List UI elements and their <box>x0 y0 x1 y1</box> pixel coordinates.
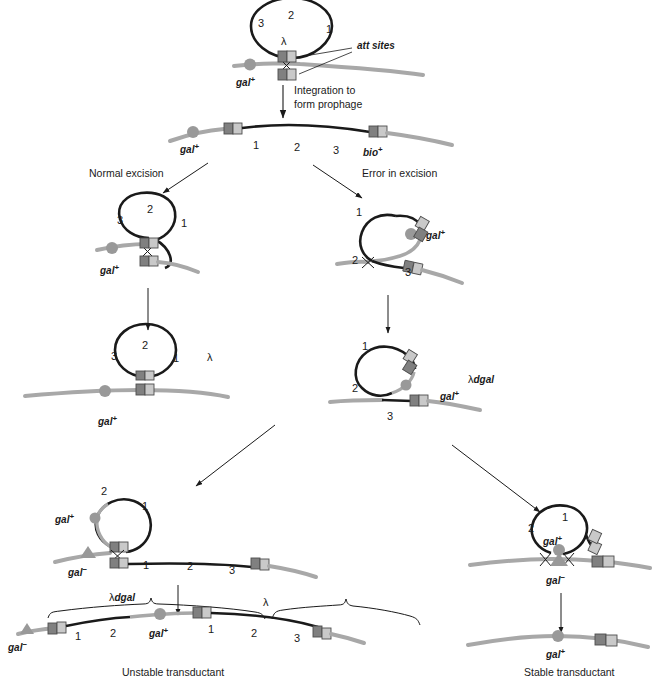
stage6l-att3-dark <box>313 626 322 637</box>
stage6l-gal-minus-triangle-icon <box>20 623 34 634</box>
stage5r-gal-minus-label: gal− <box>546 574 565 586</box>
error-in-excision-label: Error in excision <box>362 168 437 179</box>
stage3r-phage-dna-bottom <box>372 261 404 268</box>
stage2-gal-marker-icon <box>187 126 199 138</box>
stage4r-lambda-dgal-label: λdgal <box>468 374 494 385</box>
stage1-gal-label: gal+ <box>236 76 255 88</box>
stage1-att-host-left <box>278 69 287 80</box>
stage2-segment-2: 2 <box>294 142 300 153</box>
stage4r-gal-marker-icon <box>401 380 412 391</box>
stage6l-att1-dark <box>48 623 57 634</box>
stage4r-gal-label: gal+ <box>440 390 459 402</box>
stage4l-att-phage-light <box>145 371 154 380</box>
integration-label-line1: Integration to <box>294 85 355 96</box>
stage5l-host-right <box>269 566 316 577</box>
stage5l-gal-minus-triangle-icon <box>80 546 96 558</box>
stage5l-att-right-dark <box>251 558 260 569</box>
stage6l-phage-seg-b <box>211 613 318 627</box>
stage6l-right-segment-2: 2 <box>251 628 257 639</box>
stage5l-gal-plus-label: gal+ <box>55 513 74 525</box>
stage4r-number-2: 2 <box>352 383 358 394</box>
stage4r-host-right <box>428 401 480 410</box>
stage1-gal-marker-icon <box>244 59 256 71</box>
stage3r-number-2: 2 <box>352 255 358 266</box>
stage5r-gal-plus-label: gal+ <box>543 535 562 547</box>
brace-spacer <box>272 601 353 620</box>
stage6l-left-segment-2: 2 <box>110 628 116 639</box>
stage2-att-right-dark <box>369 126 378 137</box>
stage3l-gal-label: gal+ <box>100 264 119 276</box>
stage5l-segment-3: 3 <box>229 565 235 576</box>
stage5l-gal-minus-label: gal− <box>68 566 87 578</box>
stage2-att-right-light <box>378 126 387 137</box>
stage4l-host-dna <box>25 390 228 397</box>
stage6r-att-light <box>606 635 617 646</box>
stage6r-gal-plus-label: gal+ <box>546 648 565 660</box>
stage4l-number-1: 1 <box>173 353 179 364</box>
stage5l-gal-arc2 <box>97 520 111 547</box>
stage5l-gal-plus-marker-icon <box>90 513 101 524</box>
stage5l-att-right-light <box>260 559 269 570</box>
stage3r-phage-loop-left <box>360 215 396 261</box>
stage5r-number-2: 2 <box>528 523 534 534</box>
stage6l-right-segment-1: 1 <box>208 624 214 635</box>
stage4l-att-phage-dark <box>136 371 145 380</box>
stage5l-segment-1: 1 <box>143 560 149 571</box>
arrow-error-excision <box>313 165 362 198</box>
unstable-transductant-caption: Unstable transductant <box>122 667 224 678</box>
stage3l-att-top-dark <box>140 238 149 248</box>
stage4l-att-host-dark <box>136 384 145 395</box>
stage6l-host-far-right <box>331 634 364 643</box>
stage6l-gal-plus-marker-icon <box>154 608 166 620</box>
brace-lambda-label: λ <box>263 597 269 608</box>
stage5l-number-2: 2 <box>101 486 107 497</box>
figure-canvas: 3 2 1 λ att sites gal+ Integration to fo… <box>0 0 671 694</box>
stage3l-phage-loop <box>119 193 175 240</box>
stage2-gal-label: gal+ <box>180 143 199 155</box>
stage5r-number-1: 1 <box>562 512 568 523</box>
stage5r-att-host-dark <box>592 556 603 567</box>
normal-excision-label: Normal excision <box>89 168 164 179</box>
brace-lambda-dgal-label: λdgal <box>109 592 135 603</box>
stage3r-host-right <box>422 270 462 283</box>
stage3l-att-top-light <box>149 238 158 248</box>
stage4r-phage-remnant <box>382 400 412 401</box>
stage4r-host-left <box>330 400 382 402</box>
stage4r-att-chrom-dark <box>410 395 419 406</box>
stage1-number-2: 2 <box>288 10 294 21</box>
stage6l-left-segment-1: 1 <box>75 631 81 642</box>
stage1-lambda-label: λ <box>281 36 287 47</box>
stage1-number-3: 3 <box>258 18 264 29</box>
stage4l-lambda-label: λ <box>207 352 213 363</box>
stage6l-right-segment-3: 3 <box>294 633 300 644</box>
stage2-host-right <box>387 133 452 145</box>
stage5l-segment-2: 2 <box>187 561 193 572</box>
stage6-right-group <box>468 630 648 647</box>
stage6r-gal-plus-marker-icon <box>552 630 564 642</box>
stage6r-att-dark <box>595 634 606 645</box>
stage6l-att2-dark <box>193 607 202 618</box>
stage4r-number-1: 1 <box>362 341 368 352</box>
stage5l-att-host-dark <box>110 558 119 568</box>
stage3l-number-2: 2 <box>147 204 153 215</box>
stage2-att-left-dark <box>224 123 233 134</box>
stage2-prophage-dna <box>242 125 370 132</box>
stage5l-number-1: 1 <box>142 501 148 512</box>
brace-spacer5 <box>271 599 349 619</box>
stage4-left-group <box>25 324 228 397</box>
stage4l-gal-marker-icon <box>99 385 111 397</box>
stage5-left-group <box>55 499 316 577</box>
stage3l-number-1: 1 <box>181 218 187 229</box>
stage6l-att2-light <box>202 607 211 618</box>
stage2-att-left-light <box>233 123 242 134</box>
stage3l-number-3: 3 <box>117 215 123 226</box>
stage1-att-phage-right <box>287 51 296 62</box>
stage4l-number-2: 2 <box>142 340 148 351</box>
stage1-host-dna <box>234 63 423 75</box>
stage6l-gal-plus-label: gal+ <box>149 627 168 639</box>
stage1-att-phage-left <box>278 51 287 62</box>
stage5l-att-host-light <box>119 558 128 568</box>
stage6l-gal-minus-label: gal− <box>8 641 27 653</box>
stable-transductant-caption: Stable transductant <box>524 667 614 678</box>
stage3l-host-right <box>158 262 198 272</box>
